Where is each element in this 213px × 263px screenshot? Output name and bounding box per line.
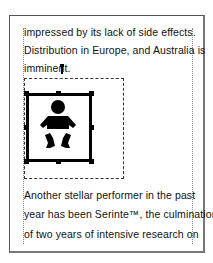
resize-handle-bottom-right[interactable] [89,159,94,164]
resize-handle-bottom-left[interactable] [24,159,29,164]
resize-handle-top-right[interactable] [89,91,94,96]
text-line[interactable]: Distribution in Europe, and Australia is [24,44,205,56]
resize-handle-right[interactable] [89,125,94,130]
baby-icon [36,99,82,153]
resize-handle-top-left[interactable] [24,91,29,96]
text-line[interactable]: impressed by its lack of side effects. [24,26,196,38]
resize-handle-top[interactable] [56,91,61,96]
resize-handle-left[interactable] [24,125,29,130]
text-line[interactable]: of two years of intensive research on [24,228,199,240]
text-line[interactable]: year has been Serinte™, the culmination [24,208,213,220]
text-cursor [61,64,63,74]
resize-handle-bottom[interactable] [56,159,61,164]
text-line[interactable]: Another stellar performer in the past [24,189,195,201]
